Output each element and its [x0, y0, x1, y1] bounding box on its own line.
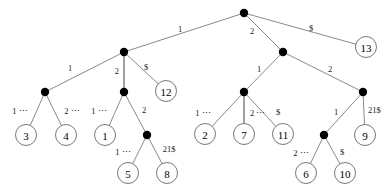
edge-label: 21$ [163, 144, 176, 154]
leaf-label: 2 [202, 129, 208, 141]
internal-nodes-layer [41, 9, 367, 139]
edge-label: 2 [115, 66, 119, 76]
edge-label: $ [309, 23, 313, 33]
tree-edge [147, 135, 162, 164]
edge-label: 2 [328, 64, 332, 74]
leaf-node: 7 [234, 124, 255, 145]
leaf-node: 6 [296, 163, 317, 184]
internal-node [279, 48, 287, 56]
edge-label: 2 ⋯ [250, 108, 265, 118]
edge-label: 1 [257, 64, 261, 74]
leaf-node: 2 [195, 124, 216, 145]
internal-node [240, 9, 248, 17]
leaf-node: 8 [157, 163, 178, 184]
leaf-label: 11 [278, 129, 289, 141]
internal-node [240, 88, 248, 96]
edge-label: 1 ⋯ [115, 147, 130, 157]
tree-edge [310, 135, 324, 164]
edge-label: 1 [178, 24, 182, 34]
edge-label: 2 [250, 26, 254, 36]
leaf-node: 11 [273, 124, 294, 145]
edge-label: 1 [68, 63, 72, 73]
edge-label: 2 [142, 105, 146, 115]
tree-edge [124, 13, 244, 52]
leaf-node: 13 [356, 37, 377, 58]
leaf-node: 1 [95, 125, 116, 146]
tree-edge [283, 52, 363, 92]
tree-edge [30, 92, 45, 125]
leaf-label: 9 [362, 130, 368, 142]
tree-edge [244, 13, 356, 44]
edge-label: $ [276, 107, 280, 117]
leaf-label: 13 [361, 42, 373, 54]
tree-edge [124, 52, 158, 84]
leaf-node: 5 [118, 163, 139, 184]
internal-node [320, 131, 328, 139]
edge-label: 1 ⋯ [195, 108, 210, 118]
tree-edge [45, 52, 124, 92]
leaf-label: 6 [303, 168, 309, 180]
tree-diagram-canvas: 12$12$1 ⋯2 ⋯1 ⋯21 ⋯21$121 ⋯2 ⋯$121$2 ⋯$ … [0, 0, 392, 196]
tree-edge [363, 92, 365, 125]
leaf-label: 1 [102, 130, 108, 142]
edge-label: $ [340, 147, 344, 157]
leaf-label: 8 [164, 168, 170, 180]
tree-edge [324, 135, 340, 164]
internal-node [120, 48, 128, 56]
suffix-tree-figure: 12$12$1 ⋯2 ⋯1 ⋯21 ⋯21$121 ⋯2 ⋯$121$2 ⋯$ … [0, 0, 392, 196]
edge-label: 2 ⋯ [293, 148, 308, 158]
edge-label: 1 ⋯ [91, 106, 106, 116]
leaf-label: 12 [161, 86, 172, 98]
leaf-label: 3 [23, 130, 29, 142]
leaf-label: 4 [63, 130, 69, 142]
tree-edge [244, 52, 283, 92]
internal-node [41, 88, 49, 96]
leaf-node: 3 [16, 125, 37, 146]
tree-edge [133, 135, 147, 164]
edge-label: 21$ [368, 105, 381, 115]
edge-label: 2 ⋯ [64, 106, 79, 116]
internal-node [359, 88, 367, 96]
leaf-label: 5 [125, 168, 131, 180]
edge-label: 1 ⋯ [12, 106, 27, 116]
internal-node [120, 88, 128, 96]
leaf-label: 7 [241, 129, 247, 141]
leaf-node: 12 [156, 81, 177, 102]
leaf-node: 10 [335, 163, 356, 184]
edge-label: $ [144, 62, 148, 72]
leaf-node: 9 [355, 125, 376, 146]
edge-label: 1 [334, 107, 338, 117]
tree-edge [45, 92, 61, 126]
internal-node [143, 131, 151, 139]
tree-edge [212, 92, 244, 126]
tree-edge [109, 92, 124, 125]
leaf-node: 4 [56, 125, 77, 146]
leaf-label: 10 [340, 168, 352, 180]
